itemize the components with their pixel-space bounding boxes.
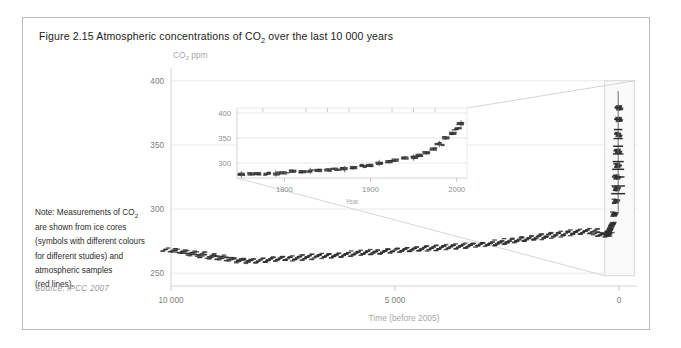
main-axes (171, 68, 637, 291)
inset-y-tick-350: 350 (218, 134, 231, 143)
figure-card: Figure 2.15 Atmospheric concentrations o… (22, 17, 650, 330)
main-y-tick-400: 400 (150, 77, 164, 86)
axis-labels: 25030035040010 0005 0000Time (before 200… (150, 50, 621, 323)
main-x-tick-2: 0 (617, 296, 622, 305)
inset-y-tick-300: 300 (218, 159, 231, 168)
main-y-axis-label: CO2 ppm (173, 50, 208, 61)
main-x-axis-label: Time (before 2005) (369, 313, 440, 323)
main-y-tick-300: 300 (150, 205, 164, 214)
main-x-tick-0: 10 000 (158, 296, 183, 305)
inset-x-axis-label: Year (346, 198, 360, 205)
main-y-tick-350: 350 (150, 141, 164, 150)
inset-x-tick-0: 1800 (276, 185, 293, 194)
inset-y-tick-400: 400 (218, 109, 231, 118)
main-x-tick-1: 5 000 (385, 296, 406, 305)
main-y-tick-250: 250 (150, 269, 164, 278)
co2-chart: 25030035040010 0005 0000Time (before 200… (23, 18, 651, 331)
inset-x-tick-1: 1900 (362, 185, 379, 194)
inset-x-tick-2: 2000 (448, 185, 465, 194)
